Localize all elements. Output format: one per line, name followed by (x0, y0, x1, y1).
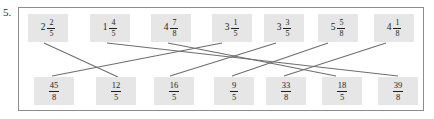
fraction-denominator: 5 (232, 29, 238, 38)
fraction: 125 (111, 81, 122, 101)
tile-value: 338 (281, 81, 292, 101)
fraction: 58 (337, 19, 345, 38)
improper-fraction-tile[interactable]: 125 (96, 77, 136, 105)
fraction: 185 (337, 81, 348, 101)
mixed-number-tile[interactable]: 315 (212, 14, 252, 42)
whole-number-part: 2 (41, 23, 46, 33)
mixed-number-tile[interactable]: 145 (90, 14, 130, 42)
whole-number-part: 5 (331, 23, 336, 33)
fraction-numerator: 1 (394, 19, 400, 28)
fraction: 398 (393, 81, 404, 101)
whole-number-part: 3 (225, 23, 230, 33)
fraction-numerator: 39 (393, 81, 404, 91)
mixed-number-tile[interactable]: 225 (28, 14, 68, 42)
tile-value: 315 (225, 19, 240, 38)
tile-value: 335 (277, 19, 292, 38)
fraction-numerator: 12 (111, 81, 122, 91)
fraction-denominator: 8 (171, 29, 177, 38)
fraction: 95 (230, 81, 238, 101)
fraction-denominator: 5 (339, 92, 345, 102)
tile-value: 95 (230, 81, 238, 101)
mixed-number-tile[interactable]: 418 (374, 14, 414, 42)
fraction-denominator: 5 (231, 92, 237, 102)
question-number: 5. (3, 6, 11, 18)
fraction-numerator: 33 (281, 81, 292, 91)
fraction: 25 (47, 19, 55, 38)
tile-value: 225 (41, 19, 56, 38)
tile-value: 185 (337, 81, 348, 101)
fraction-numerator: 45 (49, 81, 60, 91)
whole-number-part: 1 (103, 23, 108, 33)
fraction-denominator: 5 (284, 29, 290, 38)
fraction: 18 (393, 19, 401, 38)
fraction: 165 (169, 81, 180, 101)
fraction: 35 (283, 19, 291, 38)
tile-value: 145 (103, 19, 118, 38)
fraction-denominator: 5 (110, 29, 116, 38)
improper-fraction-tile[interactable]: 458 (34, 77, 74, 105)
fraction-denominator: 8 (283, 92, 289, 102)
mixed-number-tile[interactable]: 558 (318, 14, 358, 42)
fraction-denominator: 5 (48, 29, 54, 38)
improper-fraction-tile[interactable]: 165 (154, 77, 194, 105)
tile-value: 558 (331, 19, 346, 38)
fraction: 338 (281, 81, 292, 101)
fraction-denominator: 5 (171, 92, 177, 102)
fraction: 78 (170, 19, 178, 38)
fraction-numerator: 3 (284, 19, 290, 28)
improper-fraction-tile[interactable]: 95 (214, 77, 254, 105)
fraction: 45 (109, 19, 117, 38)
fraction-numerator: 18 (337, 81, 348, 91)
fraction: 15 (231, 19, 239, 38)
whole-number-part: 4 (164, 23, 169, 33)
fraction: 458 (49, 81, 60, 101)
fraction-numerator: 7 (171, 19, 177, 28)
tile-value: 398 (393, 81, 404, 101)
fraction-denominator: 8 (51, 92, 57, 102)
whole-number-part: 4 (387, 23, 392, 33)
fraction-denominator: 5 (113, 92, 119, 102)
tile-value: 125 (111, 81, 122, 101)
tile-value: 418 (387, 19, 402, 38)
fraction-numerator: 5 (338, 19, 344, 28)
tile-value: 165 (169, 81, 180, 101)
fraction-numerator: 4 (110, 19, 116, 28)
improper-fraction-tile[interactable]: 185 (322, 77, 362, 105)
fraction-numerator: 2 (48, 19, 54, 28)
fraction-denominator: 8 (338, 29, 344, 38)
improper-fraction-tile[interactable]: 338 (266, 77, 306, 105)
improper-fraction-tile[interactable]: 398 (378, 77, 418, 105)
fraction-denominator: 8 (394, 29, 400, 38)
fraction-numerator: 16 (169, 81, 180, 91)
fraction-numerator: 1 (232, 19, 238, 28)
fraction-numerator: 9 (231, 81, 237, 91)
mixed-number-tile[interactable]: 478 (151, 14, 191, 42)
worksheet-question: 5. 225145478315335558418 458125165953381… (0, 0, 434, 119)
tile-value: 478 (164, 19, 179, 38)
whole-number-part: 3 (277, 23, 282, 33)
mixed-number-tile[interactable]: 335 (264, 14, 304, 42)
fraction-denominator: 8 (395, 92, 401, 102)
tile-value: 458 (49, 81, 60, 101)
